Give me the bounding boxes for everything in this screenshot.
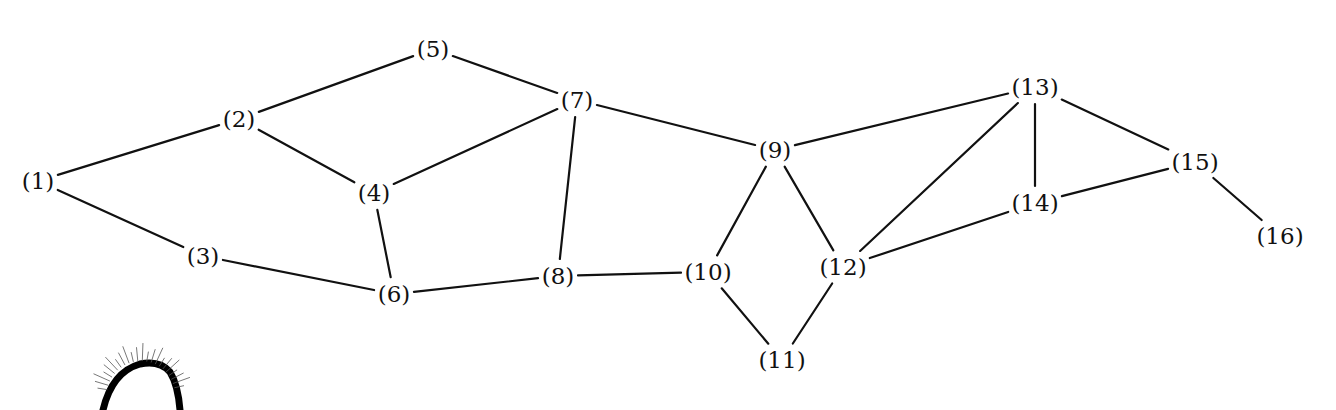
edge-2-4 [259, 130, 355, 182]
edge-12-14 [870, 212, 1008, 258]
node-5-label: (5) [417, 36, 450, 62]
edge-5-7 [453, 56, 557, 93]
sketch-hair-line [94, 374, 110, 381]
graph-nodes: (1)(2)(3)(4)(5)(6)(7)(8)(9)(10)(11)(12)(… [22, 36, 1304, 373]
edge-6-8 [414, 278, 538, 292]
node-15-label: (15) [1171, 149, 1218, 175]
edge-2-5 [259, 56, 413, 112]
sketch-hair-line [118, 353, 125, 365]
node-1-label: (1) [22, 168, 55, 194]
node-11-label: (11) [758, 347, 805, 373]
node-3-label: (3) [187, 243, 220, 269]
sketch-hair-line [104, 365, 115, 374]
edge-3-6 [223, 260, 374, 290]
edge-1-3 [58, 190, 184, 247]
sketch-hair-line [123, 346, 129, 363]
node-12-label: (12) [819, 254, 866, 280]
graph-diagram: (1)(2)(3)(4)(5)(6)(7)(8)(9)(10)(11)(12)(… [0, 0, 1336, 410]
edge-14-15 [1062, 169, 1168, 196]
edge-1-2 [58, 125, 219, 175]
node-8-label: (8) [542, 263, 575, 289]
edge-8-10 [578, 273, 681, 276]
sketch-hair-line [115, 359, 121, 367]
partial-sketch-drawing [94, 343, 190, 410]
sketch-hair-line [131, 352, 133, 362]
sketch-hair-line [98, 388, 108, 390]
node-14-label: (14) [1011, 190, 1058, 216]
edge-10-11 [722, 288, 769, 343]
sketch-hair-line [95, 381, 108, 385]
node-10-label: (10) [684, 259, 731, 285]
edge-13-15 [1062, 100, 1169, 150]
edge-7-8 [560, 117, 575, 259]
edge-7-9 [597, 105, 755, 145]
graph-edges [58, 56, 1262, 344]
sketch-hair-line [142, 343, 143, 361]
node-6-label: (6) [378, 281, 411, 307]
edge-11-12 [793, 284, 832, 344]
edge-4-6 [377, 210, 390, 277]
node-9-label: (9) [759, 137, 792, 163]
sketch-hair-line [104, 372, 113, 377]
sketch-hair-line [136, 347, 137, 361]
edge-9-13 [795, 94, 1008, 146]
node-16-label: (16) [1256, 223, 1303, 249]
edge-9-12 [785, 167, 834, 251]
node-7-label: (7) [561, 87, 594, 113]
edge-15-16 [1213, 178, 1261, 220]
node-13-label: (13) [1011, 74, 1058, 100]
edge-9-10 [717, 167, 766, 256]
sketch-hair-line [105, 357, 117, 370]
node-4-label: (4) [358, 180, 391, 206]
node-2-label: (2) [223, 106, 256, 132]
edge-4-7 [394, 109, 558, 184]
edge-12-13 [860, 103, 1018, 251]
